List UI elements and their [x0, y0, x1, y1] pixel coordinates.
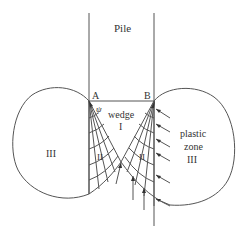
wedge-label: wedge: [108, 109, 135, 120]
wedge-zone-label: I: [119, 121, 122, 132]
angle-psi-label: ψ: [96, 104, 102, 114]
point-a-label: A: [92, 90, 100, 101]
zone-label: zone: [184, 141, 203, 152]
zone-iii-left-label: III: [46, 148, 56, 159]
zone-ii-left-label: II: [97, 152, 103, 162]
pile-failure-diagram: Pile A B ψ wedge I II II III plastic zon…: [0, 0, 244, 230]
plastic-label: plastic: [180, 128, 207, 139]
left-lobe-boundary: [13, 88, 89, 199]
zone-ii-right-label: II: [139, 152, 145, 162]
point-b-label: B: [144, 90, 151, 101]
zone-iii-right-label: III: [187, 154, 197, 165]
pile-label: Pile: [114, 22, 131, 34]
